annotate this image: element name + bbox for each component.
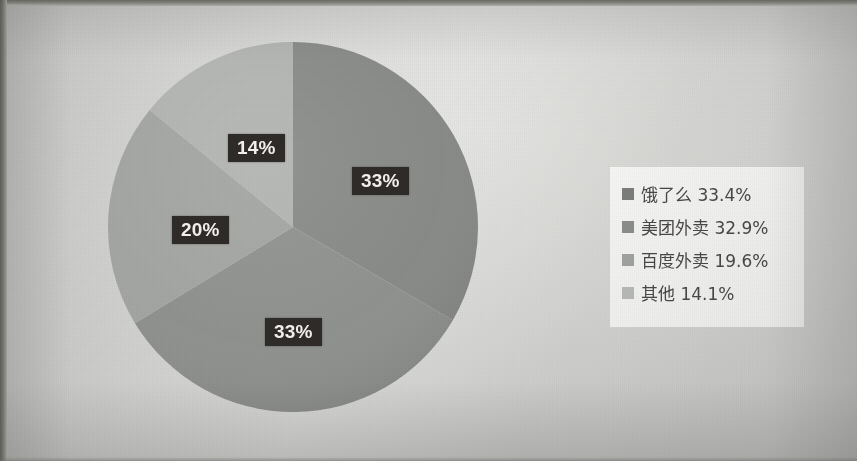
scan-edge-top — [0, 0, 857, 6]
legend-item-1[interactable]: 美团外卖 32.9% — [622, 210, 796, 243]
scan-edge-left — [0, 0, 7, 461]
legend-item-0[interactable]: 饿了么 33.4% — [622, 177, 796, 210]
legend-label: 美团外卖 32.9% — [641, 214, 768, 239]
pie-shading-overlay — [108, 42, 478, 412]
scan-edge-bottom — [0, 457, 857, 461]
legend-swatch-icon — [622, 287, 634, 299]
legend-label: 其他 14.1% — [641, 280, 734, 305]
slice-label-eleme: 33% — [352, 167, 409, 195]
slice-label-baidu: 20% — [172, 216, 229, 244]
legend-item-2[interactable]: 百度外卖 19.6% — [622, 243, 796, 276]
legend-swatch-icon — [622, 188, 634, 200]
chart-legend: 饿了么 33.4%美团外卖 32.9%百度外卖 19.6%其他 14.1% — [610, 167, 804, 327]
legend-label: 百度外卖 19.6% — [641, 247, 768, 272]
slice-label-meituan: 33% — [265, 318, 322, 346]
slice-label-other: 14% — [228, 134, 285, 162]
legend-swatch-icon — [622, 254, 634, 266]
legend-swatch-icon — [622, 221, 634, 233]
legend-item-3[interactable]: 其他 14.1% — [622, 276, 796, 309]
scanned-page: 33% 33% 20% 14% 饿了么 33.4%美团外卖 32.9%百度外卖 … — [0, 0, 857, 461]
legend-label: 饿了么 33.4% — [641, 181, 751, 206]
